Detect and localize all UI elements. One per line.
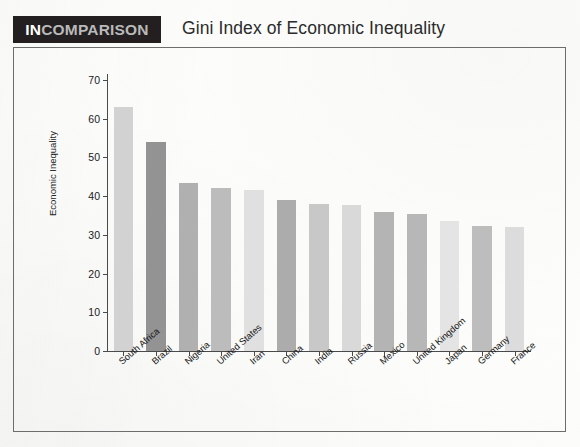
chart-header: INCOMPARISON Gini Index of Economic Ineq… (0, 0, 580, 48)
chart-frame (13, 47, 566, 432)
brand-badge: INCOMPARISON (13, 16, 161, 43)
brand-prefix: IN (25, 21, 41, 39)
page-title: Gini Index of Economic Inequality (182, 18, 445, 39)
brand-suffix: COMPARISON (41, 21, 149, 39)
